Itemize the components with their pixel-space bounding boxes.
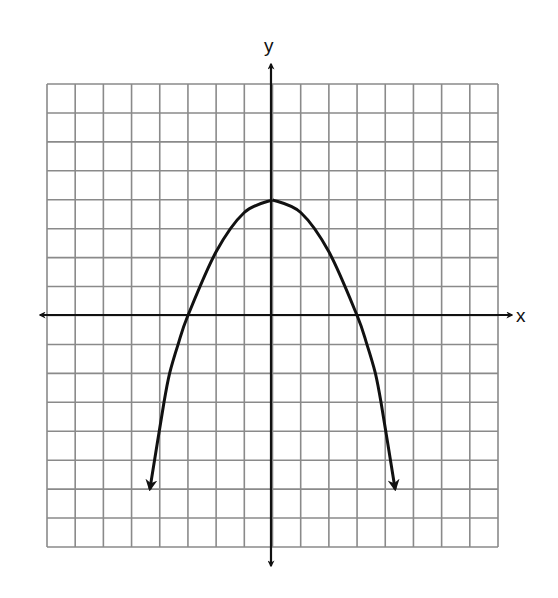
x-axis-label: x — [516, 305, 526, 326]
coordinate-plane: x y — [0, 0, 558, 598]
y-axis-label: y — [264, 35, 274, 56]
